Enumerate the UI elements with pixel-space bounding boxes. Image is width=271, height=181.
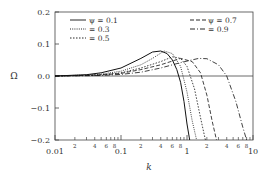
legend-label: ψ = 0.1 [89, 16, 118, 25]
x-minor-label: 4 [93, 143, 97, 149]
x-minor-label: 2 [139, 143, 143, 149]
x-minor-label: 4 [225, 143, 229, 149]
y-tick-label: −0.2 [31, 136, 50, 145]
curve-0.1 [55, 51, 190, 140]
x-minor-label: 8 [179, 143, 183, 149]
x-minor-label: 6 [237, 143, 241, 149]
x-axis-label: k [146, 162, 151, 172]
x-minor-label: 6 [171, 143, 175, 149]
curve-0.7 [55, 58, 217, 140]
y-tick-label: −0.1 [31, 104, 50, 113]
legend: ψ = 0.1= 0.3= 0.5ψ = 0.7= 0.9 [70, 16, 237, 43]
x-minor-label: 6 [105, 143, 109, 149]
x-tick-label: 0.1 [115, 147, 128, 156]
y-tick-label: 0.2 [37, 8, 50, 17]
y-tick-label: 0.0 [37, 72, 50, 81]
x-minor-label: 2 [205, 143, 209, 149]
x-tick-label: 0.01 [46, 147, 64, 156]
y-axis-label: Ω [10, 71, 17, 81]
curve-0.9 [55, 58, 247, 140]
x-minor-label: 8 [245, 143, 249, 149]
legend-label: = 0.5 [89, 34, 110, 43]
x-minor-label: 8 [113, 143, 117, 149]
curves [55, 51, 247, 140]
legend-label: = 0.9 [208, 25, 229, 34]
curve-0.5 [55, 57, 205, 140]
x-minor-label: 2 [73, 143, 77, 149]
x-minor-label: 4 [159, 143, 163, 149]
x-tick-label: 10 [248, 147, 258, 156]
x-tick-label: 1 [184, 147, 189, 156]
legend-label: = 0.3 [89, 25, 110, 34]
y-tick-label: 0.1 [37, 40, 50, 49]
legend-label: ψ = 0.7 [208, 16, 237, 25]
chart: 0.20.10.0−0.1−0.20.010.1110246824682468k… [0, 0, 271, 181]
